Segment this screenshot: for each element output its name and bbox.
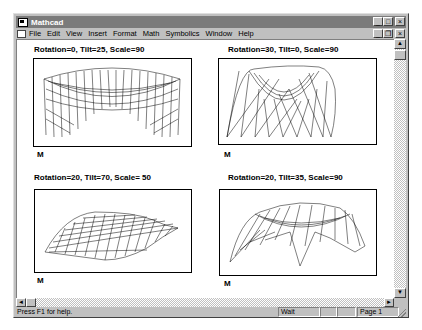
- window-title: Mathcad: [31, 18, 63, 27]
- plot-2-title: Rotation=30, Tilt=0, Scale=90: [228, 45, 338, 54]
- plot-1-label: M: [37, 150, 44, 159]
- mathcad-window: Mathcad _ □ × File Edit View Insert Form…: [13, 13, 409, 318]
- plot-3-title: Rotation=20, Tilt=70, Scale= 50: [34, 173, 151, 182]
- close-button[interactable]: ×: [395, 17, 405, 26]
- status-mode: Wait: [278, 307, 320, 317]
- status-bar: Press F1 for help. Wait Page 1: [16, 307, 406, 317]
- menu-edit[interactable]: Edit: [47, 29, 60, 38]
- status-panel-3: [337, 307, 356, 317]
- status-message: Press F1 for help.: [17, 308, 72, 315]
- horizontal-scrollbar[interactable]: ◄ ►: [16, 298, 394, 307]
- vertical-scroll-thumb[interactable]: [394, 50, 406, 60]
- document-icon[interactable]: [17, 30, 26, 38]
- maximize-button[interactable]: □: [383, 17, 393, 26]
- doc-minimize-button[interactable]: _: [373, 29, 383, 38]
- horizontal-scroll-thumb[interactable]: [26, 298, 36, 307]
- menu-window[interactable]: Window: [206, 29, 233, 38]
- scroll-left-button[interactable]: ◄: [16, 298, 26, 307]
- scroll-up-button[interactable]: ▲: [394, 39, 406, 49]
- surface-plot-3[interactable]: [34, 189, 192, 273]
- title-bar[interactable]: Mathcad _ □ ×: [16, 16, 406, 28]
- menu-symbolics[interactable]: Symbolics: [165, 29, 199, 38]
- surface-plot-2[interactable]: [218, 58, 377, 145]
- scrollbar-corner: [394, 298, 406, 307]
- plot-4-title: Rotation=20, Tilt=35, Scale=90: [228, 173, 343, 182]
- doc-restore-button[interactable]: ❐: [383, 29, 393, 38]
- scroll-down-button[interactable]: ▼: [394, 288, 406, 298]
- menu-bar: File Edit View Insert Format Math Symbol…: [16, 28, 406, 39]
- surface-plot-1[interactable]: [33, 58, 192, 147]
- menu-format[interactable]: Format: [113, 29, 137, 38]
- status-page: Page 1: [357, 307, 399, 317]
- status-panel-2: [320, 307, 337, 317]
- plot-4-label: M: [224, 279, 231, 288]
- surface-plot-4[interactable]: [219, 189, 377, 276]
- surface-mesh-2: [219, 59, 376, 144]
- scroll-right-button[interactable]: ►: [384, 298, 394, 307]
- menu-file[interactable]: File: [29, 29, 41, 38]
- surface-mesh-3: [35, 190, 191, 272]
- plot-2-label: M: [224, 150, 231, 159]
- menu-help[interactable]: Help: [238, 29, 253, 38]
- menu-view[interactable]: View: [66, 29, 82, 38]
- surface-mesh-4: [220, 190, 376, 275]
- menu-math[interactable]: Math: [143, 29, 160, 38]
- doc-close-button[interactable]: ×: [395, 29, 405, 38]
- resize-grip[interactable]: [397, 308, 406, 317]
- surface-mesh-1: [34, 59, 191, 146]
- mathcad-app-icon[interactable]: [18, 18, 28, 27]
- worksheet[interactable]: Rotation=0, Tilt=25, Scale=90 M Rotation…: [16, 39, 394, 298]
- menu-insert[interactable]: Insert: [88, 29, 107, 38]
- vertical-scrollbar[interactable]: ▲ ▼: [394, 39, 406, 298]
- plot-1-title: Rotation=0, Tilt=25, Scale=90: [34, 45, 144, 54]
- minimize-button[interactable]: _: [373, 17, 383, 26]
- plot-3-label: M: [37, 276, 44, 285]
